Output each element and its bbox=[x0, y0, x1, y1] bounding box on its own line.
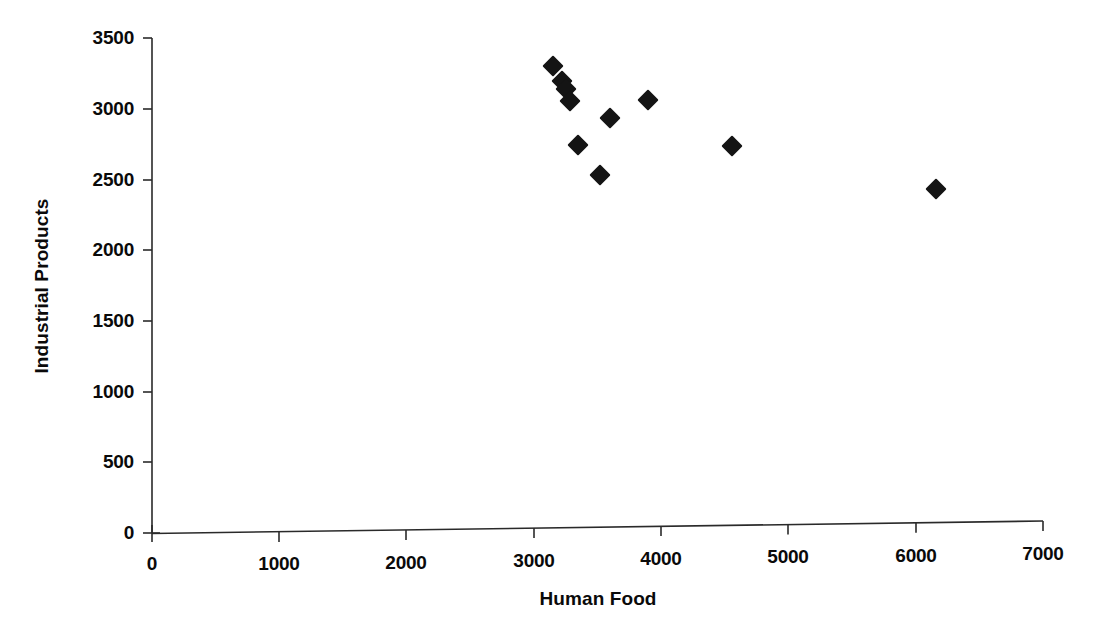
x-axis-title: Human Food bbox=[539, 588, 656, 610]
scatter-chart: 3500 3000 2500 2000 1500 1000 500 0 0 10… bbox=[0, 0, 1120, 632]
x-tick-label-1000: 1000 bbox=[258, 553, 299, 575]
y-tick-label-2500: 2500 bbox=[48, 169, 134, 191]
x-tick-label-6000: 6000 bbox=[895, 545, 936, 567]
y-tick-label-2000: 2000 bbox=[48, 239, 134, 261]
x-tick-label-4000: 4000 bbox=[640, 548, 681, 570]
y-axis-title: Industrial Products bbox=[31, 198, 53, 373]
data-point bbox=[721, 135, 742, 156]
x-tick-label-2000: 2000 bbox=[385, 552, 426, 574]
y-tick-label-3000: 3000 bbox=[48, 98, 134, 120]
y-tick-label-1000: 1000 bbox=[48, 381, 134, 403]
data-point bbox=[567, 135, 588, 156]
x-tick-label-7000: 7000 bbox=[1022, 543, 1063, 565]
data-point bbox=[600, 107, 621, 128]
data-point bbox=[589, 165, 610, 186]
data-point bbox=[925, 178, 946, 199]
x-tick-label-3000: 3000 bbox=[513, 550, 554, 572]
data-point bbox=[638, 89, 659, 110]
x-tick-label-0: 0 bbox=[147, 553, 157, 575]
x-tick-label-5000: 5000 bbox=[767, 546, 808, 568]
y-tick-label-500: 500 bbox=[48, 451, 134, 473]
y-tick-label-3500: 3500 bbox=[48, 27, 134, 49]
plot-area bbox=[152, 38, 1043, 533]
y-tick-label-0: 0 bbox=[48, 522, 134, 544]
y-tick-label-1500: 1500 bbox=[48, 310, 134, 332]
